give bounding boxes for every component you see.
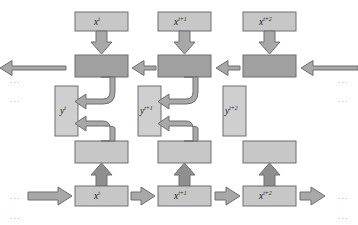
forward-arrow-out-right	[300, 187, 325, 205]
ellipsis-right-lower: ...	[338, 95, 349, 104]
ellipsis-right-upper: ...	[338, 76, 349, 85]
forward-arrow-col1-to-col2	[131, 187, 155, 205]
col1-top-down-arrow	[91, 31, 112, 54]
col2-backward-layer-box	[158, 55, 211, 77]
col3-backward-layer-box	[243, 55, 296, 77]
ellipsis-left-upper: ...	[10, 76, 21, 85]
col2-input-bottom-label: xt+1	[174, 191, 187, 202]
backward-arrow-col3-to-col2	[216, 61, 240, 76]
col1-bottom-up-arrow	[91, 163, 112, 186]
ellipsis-bottom-left-lower: ...	[10, 212, 21, 221]
col2-backward-to-output-connector	[158, 77, 198, 109]
ellipsis-bottom-right-upper: ...	[338, 192, 349, 201]
col1-input-bottom-box	[75, 186, 128, 206]
backward-arrow-in-right	[301, 61, 358, 76]
col2-output-label: yt+1	[140, 106, 153, 117]
col1-input-top-box	[75, 12, 128, 31]
col1-backward-layer-box	[75, 55, 128, 77]
col1-forward-layer-box	[75, 141, 128, 163]
col1-input-top-label: xt	[94, 17, 100, 28]
col1-output-box	[55, 86, 78, 136]
col2-forward-to-output-connector	[158, 116, 198, 141]
col2-top-down-arrow	[174, 31, 195, 54]
col1-output-label: yt	[60, 106, 66, 117]
diagram-canvas: .bx { stroke:#6e6e6e; stroke-width:1; } …	[0, 0, 358, 225]
col1-input-bottom-label: xt	[94, 191, 100, 202]
forward-arrow-in-left	[28, 187, 72, 205]
backward-arrow-out-left	[0, 61, 66, 76]
ellipsis-left-lower: ...	[10, 95, 21, 104]
col2-input-top-label: xt+1	[174, 17, 187, 28]
col1-forward-to-output-connector	[75, 116, 115, 141]
ellipsis-bottom-right-lower: ...	[338, 212, 349, 221]
col2-forward-layer-box	[158, 141, 211, 163]
col3-output-label: yt+2	[225, 106, 238, 117]
backward-arrow-col2-to-col1	[132, 61, 156, 76]
col3-input-top-label: xt+2	[259, 17, 272, 28]
col3-input-bottom-label: xt+2	[259, 191, 272, 202]
col1-backward-to-output-connector	[75, 77, 115, 109]
col2-bottom-up-arrow	[174, 163, 195, 186]
ellipsis-bottom-left-upper: ...	[10, 192, 21, 201]
col3-forward-layer-box	[243, 141, 296, 163]
col3-bottom-up-arrow	[259, 163, 280, 186]
forward-arrow-col2-to-col3	[215, 187, 240, 205]
col3-top-down-arrow	[259, 31, 280, 54]
